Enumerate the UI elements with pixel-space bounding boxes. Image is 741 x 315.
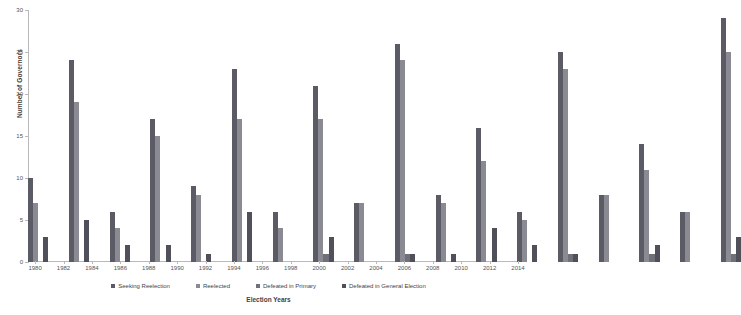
bar bbox=[726, 52, 731, 262]
x-axis-tick-labels: 1980198219841986198819901992199419961998… bbox=[28, 265, 525, 271]
x-tick-label bbox=[241, 265, 255, 271]
bar-group bbox=[130, 10, 150, 262]
bar-group bbox=[476, 10, 496, 262]
plot-area: 051015202530 bbox=[28, 10, 525, 262]
y-tick-label: 15 bbox=[16, 133, 23, 139]
bar-group bbox=[110, 10, 130, 262]
bar-group bbox=[252, 10, 272, 262]
bar bbox=[115, 228, 120, 262]
x-tick-label: 1984 bbox=[85, 265, 99, 271]
bar-group bbox=[89, 10, 109, 262]
legend-swatch-icon bbox=[256, 284, 260, 288]
bar-group bbox=[150, 10, 170, 262]
x-tick-mark bbox=[319, 261, 320, 264]
bar-group bbox=[334, 10, 354, 262]
bar bbox=[196, 195, 201, 262]
legend-label: Defeated in Primary bbox=[263, 283, 316, 289]
x-tick-label bbox=[468, 265, 482, 271]
x-tick-mark bbox=[120, 261, 121, 264]
legend-swatch-icon bbox=[111, 284, 115, 288]
x-tick-mark bbox=[404, 261, 405, 264]
x-tick-label bbox=[99, 265, 113, 271]
x-tick-label bbox=[213, 265, 227, 271]
y-tick-label: 0 bbox=[20, 259, 23, 265]
x-tick-label bbox=[156, 265, 170, 271]
x-tick-label bbox=[497, 265, 511, 271]
x-tick-label: 1988 bbox=[142, 265, 156, 271]
x-tick-mark bbox=[518, 261, 519, 264]
x-tick-label: 2012 bbox=[483, 265, 497, 271]
y-tick-label: 30 bbox=[16, 7, 23, 13]
x-tick-label bbox=[298, 265, 312, 271]
bar-group bbox=[415, 10, 435, 262]
x-tick-mark bbox=[291, 261, 292, 264]
y-tick-label: 5 bbox=[20, 217, 23, 223]
legend-label: Reelected bbox=[203, 283, 230, 289]
bar bbox=[74, 102, 79, 262]
x-tick-label: 1980 bbox=[28, 265, 42, 271]
legend-item[interactable]: Defeated in General Election bbox=[342, 283, 426, 289]
y-tick-label: 25 bbox=[16, 49, 23, 55]
x-tick-mark bbox=[376, 261, 377, 264]
bar bbox=[278, 228, 283, 262]
x-tick-label: 1996 bbox=[255, 265, 269, 271]
bar-group bbox=[69, 10, 89, 262]
legend-item[interactable]: Seeking Reelection bbox=[111, 283, 170, 289]
x-tick-label bbox=[42, 265, 56, 271]
x-tick-label bbox=[383, 265, 397, 271]
x-tick-mark bbox=[461, 261, 462, 264]
bar-group bbox=[395, 10, 415, 262]
bar bbox=[522, 220, 527, 262]
bar-group bbox=[191, 10, 211, 262]
bar bbox=[604, 195, 609, 262]
bar bbox=[359, 203, 364, 262]
x-tick-label bbox=[440, 265, 454, 271]
y-tick-label: 10 bbox=[16, 175, 23, 181]
bar bbox=[736, 237, 741, 262]
x-tick-mark bbox=[348, 261, 349, 264]
bar bbox=[563, 69, 568, 262]
x-tick-label: 2008 bbox=[426, 265, 440, 271]
bar bbox=[644, 170, 649, 262]
y-axis-title: Number of Governors bbox=[16, 19, 23, 149]
x-tick-mark bbox=[177, 261, 178, 264]
bar-group bbox=[354, 10, 374, 262]
bar-group bbox=[374, 10, 394, 262]
bar bbox=[318, 119, 323, 262]
x-tick-label bbox=[411, 265, 425, 271]
x-tick-label: 1998 bbox=[284, 265, 298, 271]
x-tick-label bbox=[326, 265, 340, 271]
bar-group bbox=[721, 10, 741, 262]
x-tick-mark bbox=[35, 261, 36, 264]
legend-item[interactable]: Defeated in Primary bbox=[256, 283, 316, 289]
bar-group bbox=[660, 10, 680, 262]
bar bbox=[400, 60, 405, 262]
bar bbox=[685, 212, 690, 262]
bar-group bbox=[171, 10, 191, 262]
x-tick-label: 1986 bbox=[113, 265, 127, 271]
bar-group bbox=[211, 10, 231, 262]
x-tick-label: 2004 bbox=[369, 265, 383, 271]
legend-label: Defeated in General Election bbox=[349, 283, 426, 289]
bar bbox=[481, 161, 486, 262]
x-tick-mark bbox=[490, 261, 491, 264]
bar-group bbox=[313, 10, 333, 262]
x-tick-label bbox=[355, 265, 369, 271]
bar-group bbox=[700, 10, 720, 262]
x-tick-mark bbox=[92, 261, 93, 264]
x-tick-mark bbox=[433, 261, 434, 264]
legend-swatch-icon bbox=[196, 284, 200, 288]
legend-item[interactable]: Reelected bbox=[196, 283, 230, 289]
x-tick-label bbox=[184, 265, 198, 271]
bar-group bbox=[28, 10, 48, 262]
x-tick-label: 1992 bbox=[198, 265, 212, 271]
x-axis-title: Election Years bbox=[0, 296, 537, 303]
x-tick-label: 1990 bbox=[170, 265, 184, 271]
bar-group bbox=[273, 10, 293, 262]
bar-group bbox=[436, 10, 456, 262]
x-tick-label: 2010 bbox=[454, 265, 468, 271]
bar bbox=[155, 136, 160, 262]
bar-group bbox=[293, 10, 313, 262]
x-tick-mark bbox=[262, 261, 263, 264]
